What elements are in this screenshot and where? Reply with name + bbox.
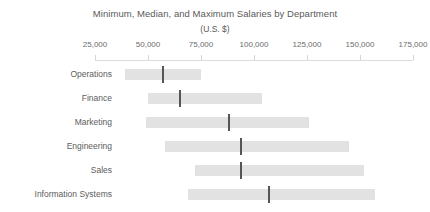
x-axis-tick-mark — [95, 55, 96, 60]
chart-row: Marketing — [0, 110, 430, 134]
x-axis-tick-mark — [413, 55, 414, 60]
x-axis-tick-mark — [254, 55, 255, 60]
chart-row: Sales — [0, 158, 430, 182]
x-axis-tick-label: 125,000 — [293, 40, 322, 49]
median-marker[interactable] — [179, 90, 181, 107]
chart-row: Information Systems — [0, 182, 430, 206]
x-axis-tick-label: 75,000 — [189, 40, 213, 49]
category-label: Finance — [0, 86, 112, 110]
chart-row: Finance — [0, 86, 430, 110]
x-axis-tick-mark — [201, 55, 202, 60]
x-axis-tick-label: 100,000 — [240, 40, 269, 49]
category-label: Sales — [0, 158, 112, 182]
x-axis-tick-mark — [360, 55, 361, 60]
category-label: Engineering — [0, 134, 112, 158]
chart-row: Engineering — [0, 134, 430, 158]
x-axis-tick-mark — [307, 55, 308, 60]
range-bar[interactable] — [165, 141, 349, 152]
range-bar[interactable] — [188, 189, 375, 200]
salary-range-chart: Minimum, Median, and Maximum Salaries by… — [0, 0, 430, 212]
category-label: Marketing — [0, 110, 112, 134]
category-label: Operations — [0, 62, 112, 86]
median-marker[interactable] — [268, 186, 270, 203]
median-marker[interactable] — [240, 162, 242, 179]
category-label: Information Systems — [0, 182, 112, 206]
x-axis-tick-label: 25,000 — [83, 40, 107, 49]
median-marker[interactable] — [240, 138, 242, 155]
range-bar[interactable] — [148, 93, 262, 104]
x-axis-tick-mark — [148, 55, 149, 60]
x-axis-line — [95, 60, 413, 61]
x-axis-tick-label: 150,000 — [346, 40, 375, 49]
range-bar[interactable] — [195, 165, 365, 176]
median-marker[interactable] — [162, 66, 164, 83]
median-marker[interactable] — [228, 114, 230, 131]
chart-row: Operations — [0, 62, 430, 86]
x-axis-tick-label: 175,000 — [399, 40, 428, 49]
x-axis-tick-label: 50,000 — [136, 40, 160, 49]
